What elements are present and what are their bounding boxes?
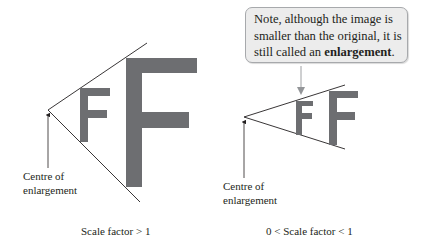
- left-caption: Scale factor > 1: [81, 224, 150, 238]
- callout-pointer-arrowhead: [297, 87, 305, 95]
- right-image-letter-f: [296, 101, 313, 135]
- left-centre-label-line2: enlargement: [23, 183, 77, 197]
- left-diagram: [48, 43, 197, 202]
- left-object-letter-f: [80, 88, 110, 142]
- left-centre-label-line1: Centre of: [23, 169, 64, 183]
- right-object-letter-f: [329, 91, 358, 145]
- right-centre-label-line2: enlargement: [223, 193, 277, 207]
- left-image-letter-f: [126, 58, 197, 187]
- callout-text-end: .: [391, 45, 394, 59]
- note-callout: Note, although the image is smaller than…: [245, 7, 408, 63]
- callout-bold-term: enlargement: [324, 45, 391, 59]
- right-caption: 0 < Scale factor < 1: [266, 224, 353, 238]
- right-diagram: [244, 66, 358, 178]
- right-centre-label-line1: Centre of: [223, 179, 264, 193]
